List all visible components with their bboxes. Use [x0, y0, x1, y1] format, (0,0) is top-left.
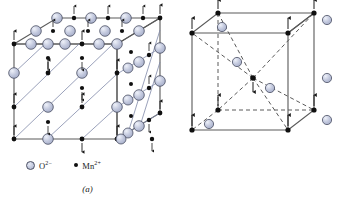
f-site: [217, 22, 226, 31]
o-site: [134, 121, 145, 132]
panel-caption-a: (a): [0, 184, 175, 194]
mn-site: [147, 86, 151, 90]
mn-site: [12, 105, 17, 110]
o-site: [43, 134, 54, 145]
mn-site: [46, 120, 50, 124]
mn-site: [80, 86, 84, 90]
oxygen-charge: 2−: [45, 160, 52, 166]
o-site: [65, 26, 76, 37]
o-site: [155, 76, 166, 87]
f-site: [322, 73, 331, 82]
mn-site: [189, 127, 194, 132]
legend-entry-oxygen: O2−: [26, 160, 52, 171]
f-site: [265, 83, 274, 92]
mn-site: [106, 16, 110, 20]
body-centre-bonds: [192, 13, 314, 130]
mn-site: [80, 137, 85, 142]
mn-site: [147, 118, 151, 122]
legend-label-manganese: Mn2+: [82, 160, 101, 171]
panel-a-mno: O2− Mn2+ (a): [0, 0, 175, 210]
mn-site: [150, 137, 154, 141]
mn-site: [285, 127, 290, 132]
mn-site: [51, 29, 55, 33]
f-site: [322, 15, 331, 24]
o-site: [123, 95, 133, 105]
legend-panel-a: O2− Mn2+: [26, 160, 101, 171]
o-site: [43, 39, 54, 50]
mn-site: [115, 71, 120, 76]
f-site: [204, 119, 213, 128]
o-site: [26, 39, 37, 50]
cell-edges-solid: [192, 13, 314, 130]
mn-site: [158, 111, 163, 116]
f-site: [322, 115, 331, 124]
mn-site: [215, 10, 220, 15]
o-site: [134, 57, 145, 68]
o-site: [155, 43, 166, 54]
o-site: [60, 39, 71, 50]
mn-site: [120, 29, 124, 33]
mn-site: [46, 56, 50, 60]
f-site: [232, 57, 241, 66]
o-site: [112, 102, 123, 113]
mn-site: [80, 42, 85, 47]
mn-site: [80, 56, 84, 60]
legend-entry-manganese: Mn2+: [74, 160, 101, 171]
mnf2-unit-cell-drawing: [175, 0, 349, 158]
o-site: [123, 63, 133, 73]
oxygen-ion-icon: [26, 161, 35, 170]
mn-site: [72, 16, 76, 20]
mn-site: [46, 71, 51, 76]
o-site: [9, 68, 20, 79]
o-site: [100, 26, 111, 37]
o-site: [112, 39, 123, 50]
crystal-structure-figure: O2− Mn2+ (a): [0, 0, 349, 210]
legend-label-oxygen: O2−: [39, 160, 52, 171]
manganese-charge: 2+: [94, 160, 101, 166]
mn-site: [311, 10, 316, 15]
cell-edges-dashed: [192, 13, 314, 130]
mn-site: [311, 107, 316, 112]
mn-site: [147, 53, 151, 57]
o-site: [134, 26, 145, 37]
o-site: [86, 13, 97, 24]
o-site: [43, 102, 54, 113]
mn-site: [86, 29, 90, 33]
mn-body-centre-site: [250, 75, 256, 81]
mn-site: [158, 16, 163, 21]
panel-b-mnf2: Mn2+ F− (b): [175, 0, 349, 210]
mn-site: [129, 50, 133, 54]
mn-site: [189, 30, 194, 35]
mn-site: [129, 114, 133, 118]
mn-site: [12, 137, 17, 142]
o-site: [94, 39, 105, 50]
o-site: [31, 26, 42, 37]
spin-plane-lines: [14, 44, 117, 139]
o-site: [116, 134, 126, 144]
mn-site: [12, 42, 17, 47]
mn-site: [215, 107, 220, 112]
mn-site: [80, 105, 85, 110]
mn-site: [129, 82, 133, 86]
o-site: [134, 90, 145, 101]
mn-site: [141, 16, 145, 20]
mno-lattice-drawing: [0, 0, 175, 158]
manganese-ion-icon: [74, 163, 78, 167]
right-face-sites: [116, 43, 165, 151]
mn-site: [285, 30, 290, 35]
